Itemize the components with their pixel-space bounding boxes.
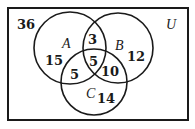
region-b-c: 10 [101, 64, 119, 79]
region-a-only: 15 [45, 53, 63, 68]
region-a-b: 3 [88, 32, 97, 47]
set-a-label: A [61, 36, 71, 51]
set-c-label: C [86, 86, 96, 101]
region-a-b-c: 5 [89, 54, 98, 69]
set-b-label: B [115, 38, 124, 53]
region-outside: 36 [17, 17, 35, 32]
region-a-c: 5 [70, 67, 79, 82]
universe-label: U [166, 17, 177, 32]
region-c-only: 14 [97, 91, 115, 106]
region-b-only: 12 [127, 49, 145, 64]
venn-diagram: U A B C 36 15 12 14 3 5 10 5 [0, 0, 195, 129]
